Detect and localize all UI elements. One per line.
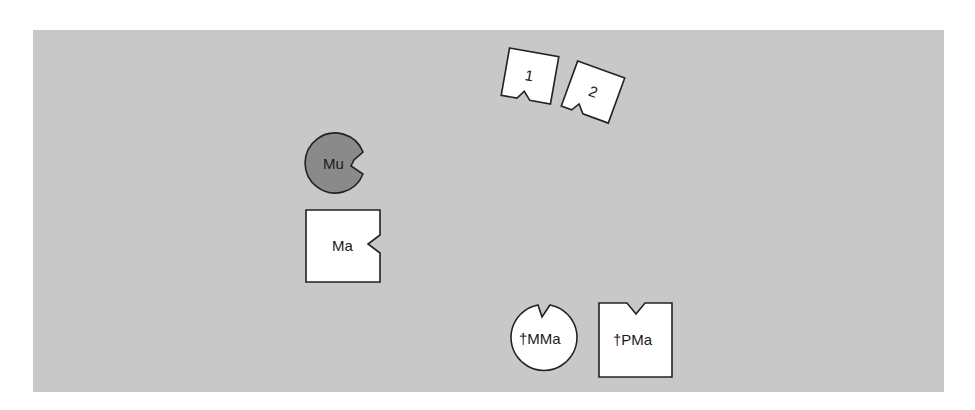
mma-label: †MMa	[519, 330, 561, 347]
shape-1: 1	[501, 48, 559, 104]
mu-shape: Mu	[305, 133, 363, 193]
mma-shape: †MMa	[511, 305, 577, 370]
diagram-canvas: Mu Ma 1 2 †MMa †PMa	[0, 0, 975, 410]
pma-label: †PMa	[613, 331, 653, 348]
shape-2: 2	[561, 61, 624, 123]
mu-label: Mu	[323, 155, 344, 172]
ma-shape: Ma	[306, 210, 380, 282]
ma-label: Ma	[332, 237, 353, 254]
pma-shape: †PMa	[599, 303, 672, 377]
